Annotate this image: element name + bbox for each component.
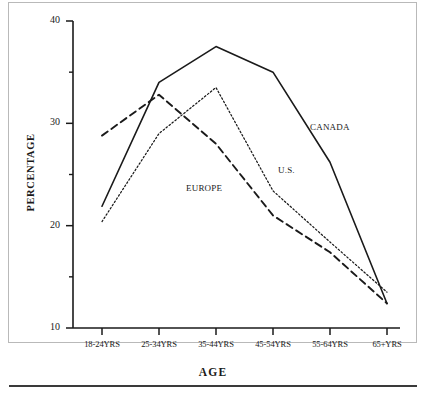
axis-lines bbox=[73, 21, 400, 328]
footer-rule bbox=[9, 385, 417, 387]
x-axis-title: AGE bbox=[0, 366, 426, 378]
x-tick-label: 18-24YRS bbox=[71, 339, 133, 349]
x-axis-ticks bbox=[102, 328, 387, 335]
x-tick-label: 45-54YRS bbox=[242, 339, 304, 349]
series-line-u-s bbox=[102, 88, 387, 293]
line-chart-canvas bbox=[0, 0, 426, 397]
y-tick-label: 40 bbox=[26, 14, 60, 25]
x-tick-label: 65+YRS bbox=[356, 339, 418, 349]
x-tick-label: 55-64YRS bbox=[299, 339, 361, 349]
y-tick-label: 20 bbox=[26, 219, 60, 230]
series-label-u-s: U.S. bbox=[278, 165, 295, 175]
x-tick-label: 25-34YRS bbox=[128, 339, 190, 349]
series-label-europe: EUROPE bbox=[186, 183, 222, 193]
y-tick-label: 10 bbox=[26, 321, 60, 332]
figure-container: PERCENTAGE AGE 10203040 18-24YRS25-34YRS… bbox=[0, 0, 426, 397]
x-tick-label: 35-44YRS bbox=[185, 339, 247, 349]
y-axis-ticks bbox=[66, 21, 73, 328]
y-tick-label: 30 bbox=[26, 116, 60, 127]
data-series-paths bbox=[102, 47, 387, 304]
series-label-canada: CANADA bbox=[310, 122, 350, 132]
